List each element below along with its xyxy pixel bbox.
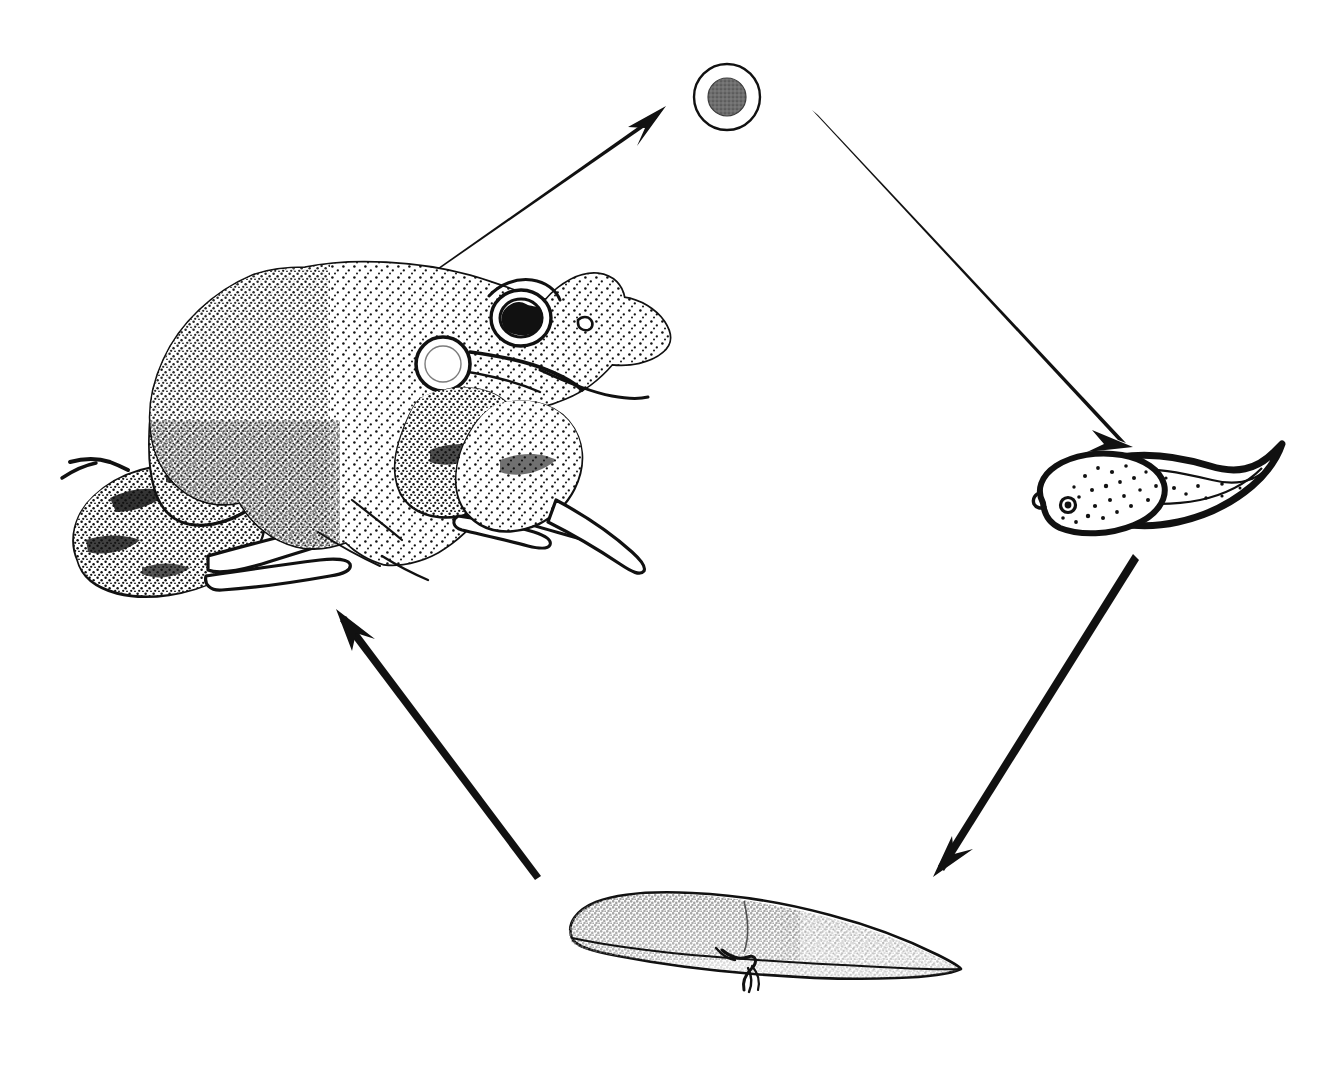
stage-egg — [694, 64, 760, 130]
tadpole-body — [1040, 453, 1165, 533]
diagram-text-data: Frog life cycle egg hatchling tadpole ta… — [0, 0, 1, 1]
life-cycle-illustration — [0, 0, 1341, 1068]
egg-yolk — [708, 78, 746, 116]
frog-nostril — [578, 317, 592, 330]
figure-title: Frog life cycle — [0, 0, 1, 1]
frog-life-cycle-diagram: Frog life cycle egg hatchling tadpole ta… — [0, 0, 1341, 1068]
frog-tympanum — [416, 337, 470, 391]
tadpole-pupil — [1065, 502, 1072, 509]
